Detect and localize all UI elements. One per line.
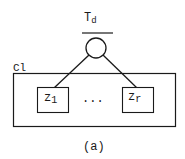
container-label: Cl (13, 62, 26, 74)
tree-diagram: Td Cl z1 ... zr (a) (0, 0, 185, 159)
caption: (a) (83, 140, 105, 154)
edge-to-z1 (54, 55, 89, 88)
ellipsis: ... (82, 92, 104, 106)
root-label: Td (84, 11, 97, 26)
edge-to-zr (103, 55, 137, 88)
